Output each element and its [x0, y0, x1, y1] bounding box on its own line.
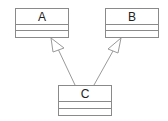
generalization-c-to-b	[94, 38, 121, 85]
class-box-b[interactable]: B	[106, 9, 159, 38]
class-diagram: A B C	[0, 0, 168, 121]
class-a-name: A	[38, 10, 46, 24]
class-c-name: C	[81, 87, 90, 101]
generalization-c-to-a	[51, 38, 75, 85]
hollow-triangle-arrow-icon	[51, 38, 64, 52]
inheritance-line-b	[94, 51, 113, 85]
class-box-a[interactable]: A	[16, 9, 69, 38]
class-b-name: B	[128, 10, 136, 24]
hollow-triangle-arrow-icon	[108, 38, 121, 53]
inheritance-line-a	[59, 50, 76, 85]
class-box-c[interactable]: C	[59, 86, 112, 116]
